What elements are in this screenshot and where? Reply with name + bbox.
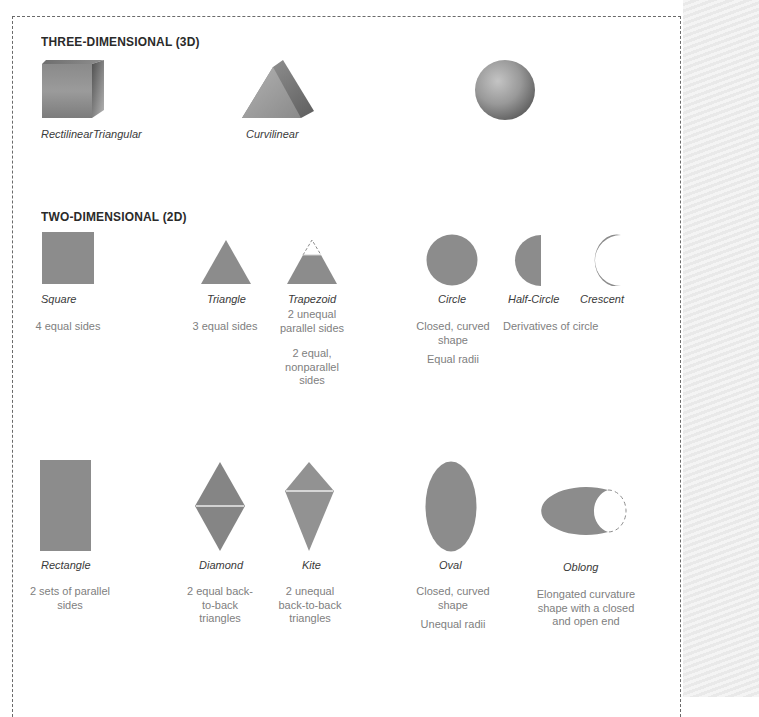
half-circle-icon [514,234,542,286]
desc-rectangle: 2 sets of parallel sides [20,585,120,612]
label-circle: Circle [438,293,466,305]
desc-oval-1: Closed, curved shape [405,585,501,612]
sphere-icon [473,60,537,122]
triangle-icon [200,239,252,285]
label-oblong: Oblong [563,561,598,573]
desc-diamond: 2 equal back-to-back triangles [181,585,259,626]
label-rectilinear-triangular: RectilinearTriangular [41,128,142,140]
label-half-circle: Half-Circle [508,293,559,305]
label-square: Square [41,293,76,305]
oval-icon [425,461,477,553]
label-diamond: Diamond [199,559,243,571]
label-rectangle: Rectangle [41,559,91,571]
section-title-2d: TWO-DIMENSIONAL (2D) [41,209,187,224]
label-trapezoid: Trapezoid [288,293,336,305]
desc-oval-2: Unequal radii [405,618,501,632]
side-strip [683,0,759,697]
square-icon [42,232,94,284]
cube-icon [40,60,106,120]
label-kite: Kite [302,559,321,571]
rectangle-icon [40,460,92,552]
diamond-icon [194,461,246,553]
prism-icon [241,60,317,120]
desc-kite: 2 unequal back-to-back triangles [271,585,349,626]
oblong-icon [535,486,627,538]
desc-triangle: 3 equal sides [181,320,269,334]
label-oval: Oval [439,559,462,571]
desc-circle-2: Equal radii [411,353,495,367]
label-crescent: Crescent [580,293,624,305]
section-title-3d: THREE-DIMENSIONAL (3D) [41,34,200,49]
desc-circle-1: Closed, curved shape [411,320,495,347]
circle-icon [426,234,478,286]
desc-circle-derivatives: Derivatives of circle [503,320,613,334]
desc-square: 4 equal sides [28,320,108,334]
desc-oblong: Elongated curvature shape with a closed … [536,588,636,629]
label-curvilinear: Curvilinear [246,128,299,140]
crescent-icon [584,234,622,286]
desc-trapezoid-2: 2 equal, nonparallel sides [279,347,345,388]
kite-icon [284,461,336,553]
trapezoid-icon [286,238,338,285]
desc-trapezoid-1: 2 unequal parallel sides [272,308,352,335]
label-triangle: Triangle [207,293,246,305]
